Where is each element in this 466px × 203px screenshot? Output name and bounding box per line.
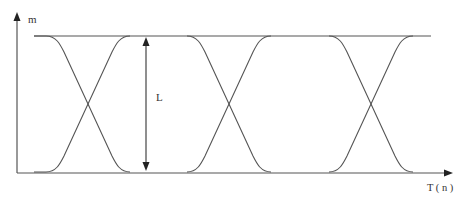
- x-axis: [17, 170, 453, 177]
- eye-opening-label: L: [156, 91, 163, 103]
- eye-traces: [34, 36, 413, 172]
- eye-diagram: m L T ( n ): [0, 0, 466, 203]
- y-axis: [14, 12, 21, 173]
- arrow-up-icon: [143, 37, 150, 46]
- y-axis-label: m: [28, 13, 37, 25]
- arrow-down-icon: [143, 162, 150, 171]
- y-axis-arrow-icon: [14, 12, 21, 21]
- eye-opening-measure: [143, 37, 150, 171]
- x-axis-arrow-icon: [444, 170, 453, 177]
- x-axis-label: T ( n ): [427, 182, 454, 194]
